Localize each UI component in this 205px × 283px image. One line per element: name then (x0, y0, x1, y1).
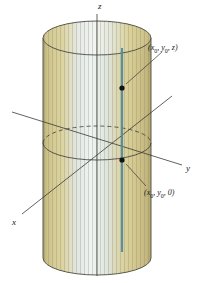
paren-close: ) (175, 43, 178, 52)
lower-point-label: (x0, y0, 0) (144, 189, 174, 199)
lower-point-dot (119, 157, 124, 162)
upper-point-dot (119, 85, 124, 90)
cylinder-figure: z y x (x0, y0, z) (x0, y0, 0) (0, 0, 205, 283)
upper-point-label: (x0, y0, z) (148, 44, 178, 54)
z-axis-label: z (98, 2, 102, 11)
x-axis-label: x (12, 218, 16, 227)
y-axis-label: y (186, 164, 190, 173)
paren-close: ) (172, 188, 175, 197)
